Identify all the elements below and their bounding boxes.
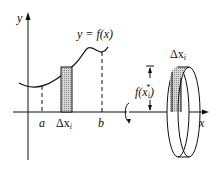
curve-label: y = f(x) [76, 27, 113, 41]
left-panel: y y = f(x) a Δxi b [13, 11, 127, 160]
tick-label-b: b [98, 116, 104, 130]
tick-label-a: a [39, 116, 45, 130]
y-axis-arrow-icon [26, 12, 31, 20]
volume-of-revolution-diagram: y y = f(x) a Δxi b x f(xi*) [0, 0, 220, 169]
riemann-rectangle [61, 67, 72, 112]
right-panel: x f(xi*) Δxi [125, 47, 209, 157]
height-arrow-up-icon [148, 67, 152, 73]
tick-label-delta-x: Δxi [56, 116, 72, 131]
height-arrow-down-icon [148, 105, 152, 111]
y-axis-label: y [16, 11, 23, 25]
height-label: f(xi*) [135, 83, 154, 100]
x-axis-arrow-icon [202, 110, 209, 115]
disk-width-label: Δxi [170, 47, 186, 62]
